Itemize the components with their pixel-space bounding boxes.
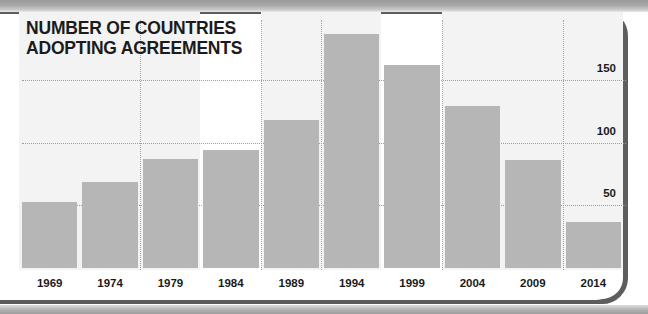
y-tick-label-100: 100 <box>597 125 616 137</box>
x-tick-label-1999: 1999 <box>384 277 439 289</box>
bar-2004 <box>445 106 500 268</box>
chart-title: NUMBER OF COUNTRIESADOPTING AGREEMENTS <box>26 19 242 58</box>
chart-plot-area: NUMBER OF COUNTRIESADOPTING AGREEMENTS 5… <box>0 12 620 302</box>
x-tick-label-1969: 1969 <box>22 277 77 289</box>
bar-1979 <box>143 159 198 268</box>
vertical-gridline <box>321 20 322 270</box>
top-gray-band <box>0 0 648 12</box>
x-tick-label-1989: 1989 <box>264 277 319 289</box>
bar-1969 <box>22 202 77 268</box>
figure-root: NUMBER OF COUNTRIESADOPTING AGREEMENTS 5… <box>0 0 648 314</box>
x-tick-label-1994: 1994 <box>324 277 379 289</box>
x-tick-label-1979: 1979 <box>143 277 198 289</box>
bar-1999 <box>384 65 439 268</box>
vertical-gridline <box>563 20 564 270</box>
x-tick-label-2014: 2014 <box>566 277 621 289</box>
vertical-gridline <box>442 20 443 270</box>
chart-title-line-2: ADOPTING AGREEMENTS <box>26 38 242 58</box>
bar-1984 <box>203 150 258 268</box>
x-tick-label-1984: 1984 <box>203 277 258 289</box>
y-tick-label-150: 150 <box>597 62 616 74</box>
vertical-gridline <box>261 20 262 270</box>
bar-1974 <box>82 182 137 268</box>
bar-1994 <box>324 34 379 268</box>
y-tick-label-50: 50 <box>603 187 616 199</box>
bar-2014 <box>566 222 621 268</box>
x-tick-label-1974: 1974 <box>82 277 137 289</box>
x-tick-label-2004: 2004 <box>445 277 500 289</box>
bottom-gray-band <box>0 305 648 314</box>
chart-title-line-1: NUMBER OF COUNTRIES <box>26 18 236 38</box>
bar-2009 <box>505 160 560 268</box>
x-tick-label-2009: 2009 <box>505 277 560 289</box>
bar-1989 <box>264 120 319 268</box>
